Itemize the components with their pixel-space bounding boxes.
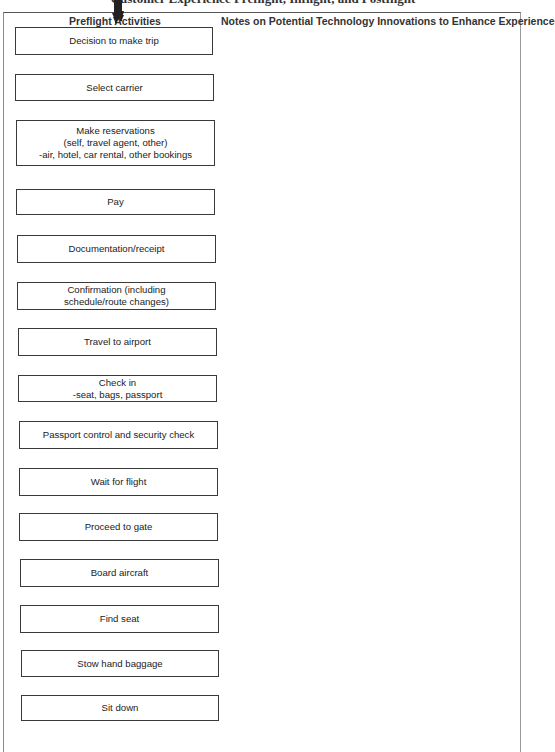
- flow-step: Proceed to gate: [19, 513, 218, 541]
- page-title: Customer Experience Preflight, Inflight,…: [0, 0, 526, 7]
- flow-step: Check in -seat, bags, passport: [18, 375, 217, 402]
- flow-step: Confirmation (including schedule/route c…: [17, 282, 216, 310]
- flow-step: Documentation/receipt: [17, 235, 216, 263]
- flow-step: Stow hand baggage: [21, 650, 219, 677]
- flow-step: Sit down: [21, 695, 219, 721]
- flow-step: Make reservations (self, travel agent, o…: [16, 120, 215, 166]
- flow-step: Wait for flight: [19, 468, 218, 496]
- flow-step: Travel to airport: [18, 328, 217, 356]
- flow-step: Select carrier: [15, 74, 214, 101]
- down-arrow-icon: [120, 0, 122, 21]
- flow-step: Find seat: [20, 605, 219, 633]
- flow-step: Decision to make trip: [15, 27, 213, 55]
- flow-step: Board aircraft: [20, 559, 219, 587]
- column-header-notes: Notes on Potential Technology Innovation…: [221, 15, 555, 27]
- flow-step: Passport control and security check: [19, 421, 218, 449]
- flow-step: Pay: [16, 189, 215, 215]
